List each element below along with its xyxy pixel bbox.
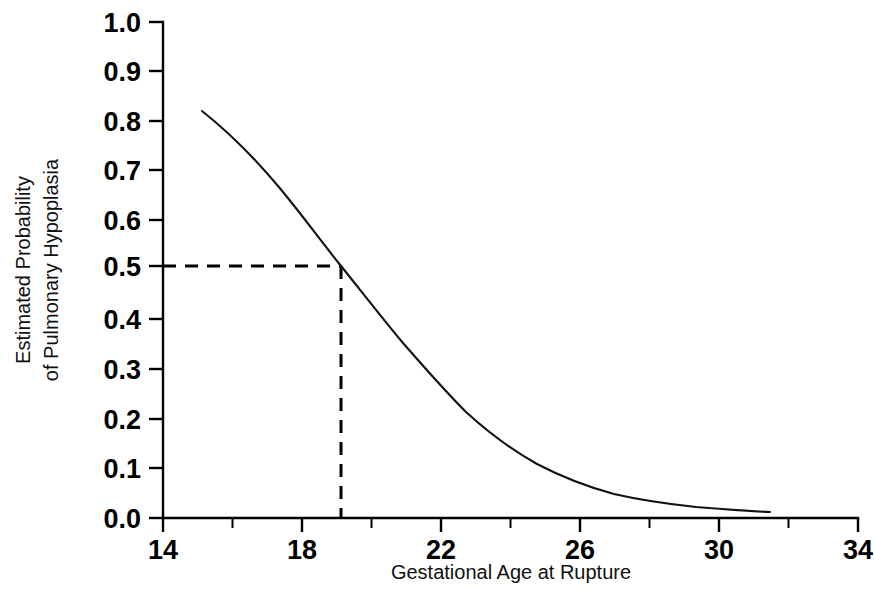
y-axis-title-line1: Estimated Probability [12,176,34,364]
probability-curve-chart: 1.0 0.9 0.8 0.7 0.6 0.5 0.4 0.3 0.2 0.1 … [0,0,874,590]
x-tick-label: 30 [704,535,734,565]
y-tick-label: 0.6 [103,206,141,236]
y-tick-label: 0.3 [103,355,141,385]
y-tick-label: 0.9 [103,57,141,87]
y-tick-label: 0.7 [103,156,141,186]
y-tick-label: 0.2 [103,405,141,435]
y-tick-label: 0.8 [103,107,141,137]
y-axis-ticks [149,22,163,518]
x-axis-title: Gestational Age at Rupture [391,561,631,583]
probability-curve-path [202,111,770,512]
y-tick-label: 0.4 [103,305,141,335]
y-tick-label: 0.1 [103,454,141,484]
x-tick-label: 18 [287,535,317,565]
y-axis-title-line2: of Pulmonary Hypoplasia [40,158,62,381]
median-reference-lines [163,266,341,518]
y-tick-label: 0.5 [103,252,141,282]
figure-container: 1.0 0.9 0.8 0.7 0.6 0.5 0.4 0.3 0.2 0.1 … [0,0,874,590]
y-tick-label: 0.0 [103,504,141,534]
y-tick-label: 1.0 [103,8,141,38]
x-axis-minor-ticks [233,518,789,528]
x-tick-label: 14 [148,535,178,565]
x-tick-label: 34 [843,535,873,565]
y-axis-tick-labels: 1.0 0.9 0.8 0.7 0.6 0.5 0.4 0.3 0.2 0.1 … [103,8,141,534]
